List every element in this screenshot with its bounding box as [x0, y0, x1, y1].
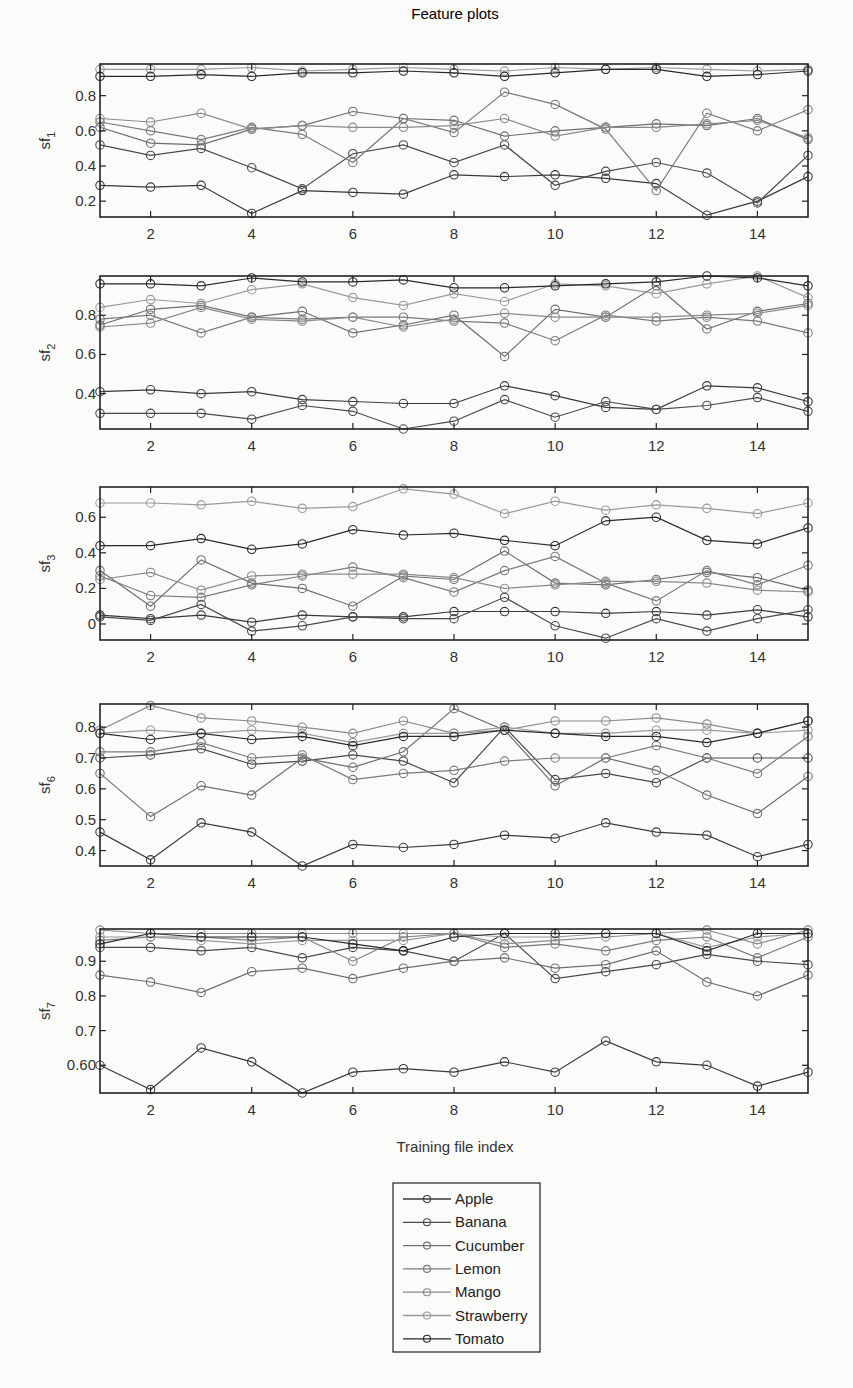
x-tick-label: 6	[349, 874, 357, 891]
figure-title: Feature plots	[411, 5, 499, 22]
y-tick-label: 0.8	[75, 87, 96, 104]
x-tick-label: 4	[248, 874, 256, 891]
x-tick-label: 8	[450, 874, 458, 891]
y-axis-label: sf1	[36, 132, 57, 150]
x-tick-label: 10	[547, 648, 564, 665]
x-tick-label: 4	[248, 437, 256, 454]
legend-label: Tomato	[455, 1330, 504, 1347]
legend-label: Lemon	[455, 1260, 501, 1277]
y-tick-label: 0.2	[75, 579, 96, 596]
x-tick-label: 6	[349, 437, 357, 454]
x-tick-label: 14	[749, 437, 766, 454]
x-tick-label: 8	[450, 1101, 458, 1118]
y-tick-label: 0.6	[75, 122, 96, 139]
x-tick-label: 14	[749, 874, 766, 891]
x-tick-label: 12	[648, 874, 665, 891]
y-tick-label: 0.8	[75, 306, 96, 323]
x-tick-label: 4	[248, 225, 256, 242]
x-tick-label: 4	[248, 648, 256, 665]
x-axis-label: Training file index	[396, 1138, 514, 1155]
legend-label: Strawberry	[455, 1307, 528, 1324]
x-tick-label: 2	[146, 437, 154, 454]
y-tick-label: 0.60	[67, 1056, 96, 1073]
y-tick-label: 0.5	[75, 811, 96, 828]
x-tick-label: 10	[547, 437, 564, 454]
y-tick-label: 0.8	[75, 718, 96, 735]
y-tick-label: 0.4	[75, 842, 96, 859]
series-banana	[96, 141, 812, 207]
legend-label: Apple	[455, 1190, 493, 1207]
y-tick-label: 0.8	[75, 987, 96, 1004]
x-tick-label: 8	[450, 225, 458, 242]
y-tick-label: 0.7	[75, 749, 96, 766]
axes-frame	[100, 487, 808, 640]
y-tick-label: 0.2	[75, 192, 96, 209]
y-tick-label: 0.4	[75, 544, 96, 561]
y-tick-label: 0.9	[75, 952, 96, 969]
x-tick-label: 12	[648, 648, 665, 665]
y-tick-label: 0	[88, 615, 96, 632]
legend-label: Cucumber	[455, 1237, 524, 1254]
x-tick-label: 14	[749, 1101, 766, 1118]
x-tick-label: 12	[648, 225, 665, 242]
y-tick-label: 0.6	[75, 508, 96, 525]
x-tick-label: 8	[450, 648, 458, 665]
x-tick-label: 6	[349, 648, 357, 665]
x-tick-label: 6	[349, 225, 357, 242]
y-tick-label: 0.7	[75, 1022, 96, 1039]
subplot-sf3: 246810121400.20.40.6sf3	[36, 485, 812, 665]
y-axis-label: sf6	[36, 776, 57, 794]
x-tick-label: 2	[146, 1101, 154, 1118]
subplot-sf1: 24681012140.20.40.60.8sf1	[36, 63, 812, 242]
legend: AppleBananaCucumberLemonMangoStrawberryT…	[393, 1183, 540, 1352]
x-tick-label: 2	[146, 874, 154, 891]
series-lemon	[96, 732, 812, 784]
y-tick-label: 0.6	[75, 780, 96, 797]
x-tick-label: 4	[248, 1101, 256, 1118]
x-tick-label: 8	[450, 437, 458, 454]
y-axis-label: sf2	[36, 344, 57, 362]
series-tomato	[96, 513, 812, 553]
x-tick-label: 10	[547, 1101, 564, 1118]
series-lemon	[96, 311, 812, 345]
x-tick-label: 12	[648, 1101, 665, 1118]
legend-label: Mango	[455, 1283, 501, 1300]
feature-plots-figure: Feature plots 24681012140.20.40.60.8sf12…	[0, 0, 853, 1388]
x-tick-label: 14	[749, 648, 766, 665]
y-axis-label: sf7	[36, 1002, 57, 1020]
x-tick-label: 2	[146, 225, 154, 242]
axes-frame	[100, 704, 808, 866]
subplot-sf2: 24681012140.40.60.8sf2	[36, 272, 812, 454]
y-axis-label: sf3	[36, 555, 57, 573]
y-tick-label: 0.4	[75, 157, 96, 174]
y-tick-label: 0.4	[75, 385, 96, 402]
axes-frame	[100, 64, 808, 217]
x-tick-label: 6	[349, 1101, 357, 1118]
subplot-sf7: 24681012140.600.70.80.9sf7	[36, 926, 812, 1118]
x-tick-label: 2	[146, 648, 154, 665]
series-lemon	[96, 552, 812, 605]
subplot-sf6: 24681012140.40.50.60.70.8sf6	[36, 701, 812, 891]
x-tick-label: 14	[749, 225, 766, 242]
subplots: 24681012140.20.40.60.8sf124681012140.40.…	[36, 63, 812, 1118]
x-tick-label: 10	[547, 225, 564, 242]
x-tick-label: 12	[648, 437, 665, 454]
legend-label: Banana	[455, 1213, 507, 1230]
y-tick-label: 0.6	[75, 345, 96, 362]
x-tick-label: 10	[547, 874, 564, 891]
